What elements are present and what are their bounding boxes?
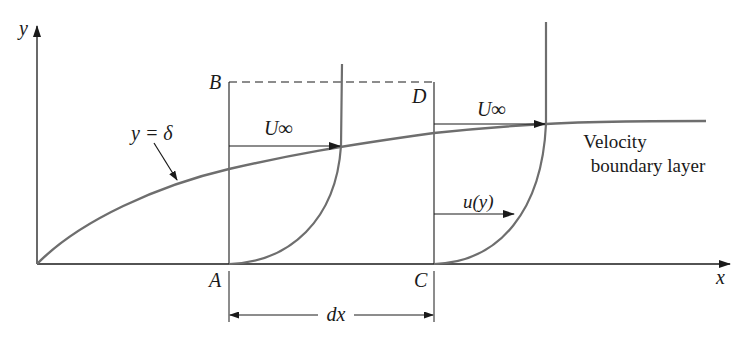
y-axis-label: y bbox=[17, 17, 28, 40]
boundary-layer-diagram: y x B D A C y = δ U∞ U∞ u(y) Velocity bo… bbox=[0, 0, 747, 345]
point-a-label: A bbox=[207, 269, 222, 291]
local-velocity-label: u(y) bbox=[463, 191, 494, 213]
x-axis-label: x bbox=[715, 266, 725, 288]
boundary-curve-label: y = δ bbox=[129, 122, 173, 145]
point-c-label: C bbox=[414, 269, 428, 291]
dimension-label: dx bbox=[327, 303, 346, 325]
region-label-line2: boundary layer bbox=[591, 155, 706, 176]
free-stream-label-left: U∞ bbox=[264, 117, 293, 139]
delta-pointer-arrow bbox=[154, 143, 177, 180]
point-b-label: B bbox=[209, 71, 221, 93]
point-d-label: D bbox=[411, 85, 427, 107]
velocity-profile-right bbox=[434, 22, 546, 264]
free-stream-label-right: U∞ bbox=[477, 98, 506, 120]
diagram-canvas: y x B D A C y = δ U∞ U∞ u(y) Velocity bo… bbox=[0, 0, 747, 345]
region-label-line1: Velocity bbox=[583, 131, 647, 152]
